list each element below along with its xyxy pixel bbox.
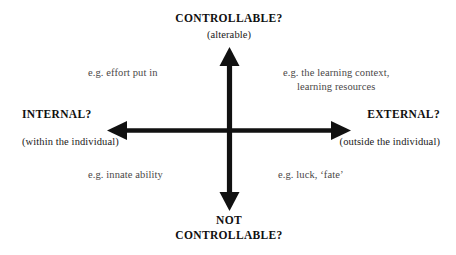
arrowhead-down-icon (220, 192, 240, 211)
quadrant-note-top-right-line1: e.g. the learning context, (283, 67, 389, 78)
arrowhead-up-icon (220, 47, 240, 66)
pole-label-not-controllable-line1: NOT (175, 213, 282, 227)
pole-label-controllable-sublabel: (alterable) (175, 28, 282, 41)
pole-label-not-controllable-line2: CONTROLLABLE? (175, 228, 282, 242)
quadrant-note-bottom-left: e.g. innate ability (88, 168, 163, 182)
quadrant-note-top-left: e.g. effort put in (88, 66, 158, 80)
quadrant-note-top-right-line2: learning resources (283, 80, 389, 94)
pole-label-controllable: CONTROLLABLE? (alterable) (175, 11, 282, 41)
quadrant-note-top-right: e.g. the learning context, learning reso… (283, 66, 389, 94)
pole-label-external: EXTERNAL? (outside the individual) (340, 107, 440, 148)
pole-label-external-sublabel: (outside the individual) (340, 135, 440, 148)
pole-label-internal-title: INTERNAL? (22, 107, 119, 121)
pole-label-internal: INTERNAL? (within the individual) (22, 107, 119, 148)
quadrant-note-bottom-right: e.g. luck, ‘fate’ (278, 168, 344, 182)
pole-label-external-title: EXTERNAL? (340, 107, 440, 121)
pole-label-internal-sublabel: (within the individual) (22, 135, 119, 148)
pole-label-not-controllable: NOT CONTROLLABLE? (175, 213, 282, 242)
attribution-quadrant-diagram: CONTROLLABLE? (alterable) NOT CONTROLLAB… (0, 0, 456, 255)
pole-label-controllable-title: CONTROLLABLE? (175, 11, 282, 25)
